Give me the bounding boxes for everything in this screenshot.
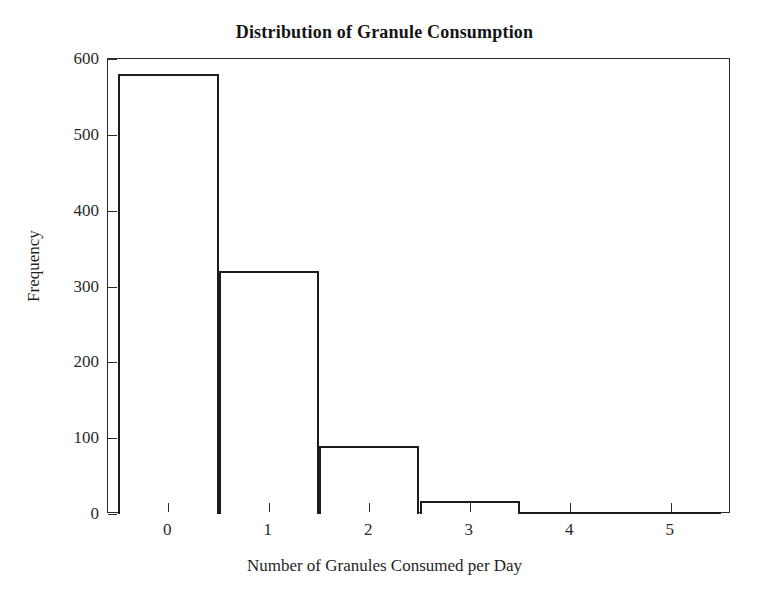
x-tick-mark [269, 503, 270, 512]
x-tick-mark [671, 503, 672, 512]
y-tick-mark [108, 211, 117, 212]
x-tick-label: 3 [449, 521, 489, 538]
y-tick-mark [108, 59, 117, 60]
y-tick-mark [108, 362, 117, 363]
y-tick-label: 500 [51, 126, 99, 143]
x-tick-mark [369, 503, 370, 512]
histogram-bar [620, 512, 720, 514]
x-tick-label: 1 [248, 521, 288, 538]
y-tick-mark [108, 438, 117, 439]
y-tick-label: 600 [51, 50, 99, 67]
x-tick-label: 5 [650, 521, 690, 538]
x-tick-label: 2 [348, 521, 388, 538]
y-axis-tick-labels: 0100200300400500600 [47, 58, 99, 513]
x-tick-mark [470, 503, 471, 512]
x-tick-mark [168, 503, 169, 512]
y-axis-label: Frequency [24, 196, 44, 336]
chart-title: Distribution of Granule Consumption [0, 22, 769, 43]
plot-area [107, 58, 730, 513]
histogram-bar [219, 271, 319, 514]
x-tick-mark [570, 503, 571, 512]
y-tick-label: 300 [51, 278, 99, 295]
histogram-bar [118, 74, 218, 514]
y-tick-label: 400 [51, 202, 99, 219]
histogram-bar [520, 512, 620, 514]
y-tick-mark [108, 514, 117, 515]
x-tick-label: 0 [147, 521, 187, 538]
y-tick-label: 100 [51, 429, 99, 446]
x-axis-label: Number of Granules Consumed per Day [0, 556, 769, 576]
y-tick-mark [108, 135, 117, 136]
y-tick-label: 200 [51, 353, 99, 370]
histogram-figure: Distribution of Granule Consumption 0100… [0, 0, 769, 601]
x-tick-label: 4 [549, 521, 589, 538]
y-tick-mark [108, 287, 117, 288]
x-axis-tick-labels: 012345 [107, 521, 730, 547]
y-tick-label: 0 [51, 505, 99, 522]
